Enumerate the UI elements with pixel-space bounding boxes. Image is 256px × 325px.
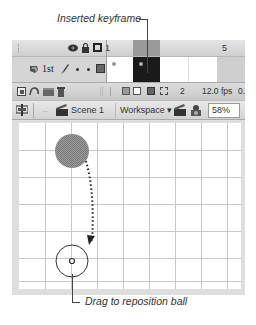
new-folder-icon[interactable] bbox=[43, 88, 54, 96]
layer-frames[interactable] bbox=[107, 57, 245, 82]
keyframe-dot bbox=[112, 62, 116, 66]
visible-dot[interactable] bbox=[76, 68, 79, 71]
lock-dot[interactable] bbox=[87, 68, 90, 71]
stage[interactable] bbox=[19, 123, 241, 289]
ball-registration-point bbox=[70, 259, 75, 264]
layer-info[interactable]: 1st bbox=[12, 57, 107, 82]
footer-grip bbox=[100, 87, 103, 96]
stage-artwork bbox=[19, 123, 241, 289]
eye-icon[interactable] bbox=[68, 44, 78, 52]
outline-icon[interactable] bbox=[93, 43, 102, 52]
ball-original-position bbox=[55, 134, 89, 168]
frame-label-5: 5 bbox=[222, 43, 227, 53]
footer-grip-2 bbox=[110, 87, 111, 96]
callout-line-vertical bbox=[147, 19, 148, 73]
keyframe-dot bbox=[139, 62, 143, 66]
edit-bar: ← Scene 1 Workspace ▾ 58% bbox=[12, 100, 245, 120]
new-layer-icon[interactable] bbox=[17, 87, 26, 96]
motion-path-arrow bbox=[86, 161, 93, 241]
callout-line-horizontal-bottom bbox=[72, 302, 80, 303]
pencil-icon bbox=[60, 63, 70, 75]
layer-name[interactable]: 1st bbox=[42, 63, 54, 74]
edit-scene-icon[interactable] bbox=[174, 104, 186, 116]
timeline-header: 1 5 bbox=[12, 40, 245, 57]
callout-line-vertical-bottom bbox=[72, 274, 73, 303]
current-frame: 2 bbox=[180, 86, 185, 96]
callout-drag-to-reposition: Drag to reposition ball bbox=[85, 295, 187, 307]
onion-skin-icon[interactable] bbox=[122, 87, 130, 95]
stage-pasteboard bbox=[12, 120, 245, 295]
callout-inserted-keyframe: Inserted keyframe bbox=[57, 12, 141, 24]
drag-handle-icon[interactable] bbox=[18, 44, 20, 53]
new-motion-guide-icon[interactable] bbox=[29, 86, 40, 96]
zoom-input[interactable]: 58% bbox=[208, 103, 240, 118]
scene-icon bbox=[56, 104, 68, 116]
layer-icon bbox=[29, 65, 39, 74]
outline-color-square[interactable] bbox=[96, 64, 105, 73]
timeline-toggle-icon[interactable] bbox=[16, 104, 28, 116]
workspace-menu[interactable]: Workspace ▾ bbox=[120, 105, 172, 115]
modify-markers-icon[interactable] bbox=[160, 87, 168, 95]
frame-5-cell[interactable] bbox=[217, 57, 245, 82]
lock-icon[interactable] bbox=[82, 43, 89, 53]
frame-separator bbox=[188, 57, 189, 82]
onion-skin-outlines-icon[interactable] bbox=[133, 87, 141, 95]
scene-label[interactable]: Scene 1 bbox=[71, 105, 104, 115]
elapsed-time: 0. bbox=[238, 86, 245, 96]
edit-symbols-icon[interactable] bbox=[190, 104, 202, 116]
frame-1-keyframe[interactable] bbox=[107, 57, 133, 82]
back-arrow-icon[interactable]: ← bbox=[41, 105, 50, 115]
edit-bar-divider-2 bbox=[115, 103, 116, 118]
delete-icon[interactable] bbox=[57, 86, 65, 97]
timeline-footer: 2 12.0 fps 0. bbox=[12, 82, 245, 100]
arrowhead-icon bbox=[87, 235, 95, 245]
edit-multiple-frames-icon[interactable] bbox=[147, 87, 155, 95]
frame-rate[interactable]: 12.0 fps bbox=[202, 86, 232, 96]
timeline-frame-ruler[interactable]: 1 5 bbox=[107, 40, 245, 56]
layer-row-1st[interactable]: 1st bbox=[12, 57, 245, 82]
edit-bar-divider bbox=[33, 103, 34, 118]
